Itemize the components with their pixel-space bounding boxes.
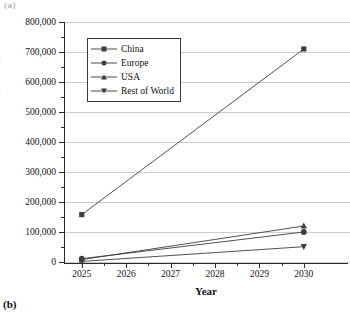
x-tick bbox=[259, 263, 260, 268]
y-tick-label: 600,000 bbox=[25, 77, 56, 87]
y-tick-label: 500,000 bbox=[25, 107, 56, 117]
chart-legend: ChinaEuropeUSARest of World bbox=[87, 38, 181, 102]
y-tick-label: 700,000 bbox=[25, 47, 56, 57]
x-tick bbox=[126, 263, 127, 268]
x-tick bbox=[215, 263, 216, 268]
y-axis-line bbox=[64, 22, 65, 263]
series-usa bbox=[79, 223, 307, 263]
legend-label: Rest of World bbox=[121, 86, 174, 96]
legend-marker-triangle-up-icon bbox=[91, 71, 117, 83]
legend-label: China bbox=[121, 44, 144, 54]
x-tick-minor bbox=[104, 263, 105, 266]
legend-label: Europe bbox=[121, 58, 148, 68]
x-tick-label: 2030 bbox=[294, 269, 313, 279]
x-tick-minor bbox=[237, 263, 238, 266]
y-tick-label: 800,000 bbox=[25, 17, 56, 27]
legend-marker-triangle-down-icon bbox=[91, 85, 117, 97]
x-tick-label: 2029 bbox=[250, 269, 269, 279]
y-tick-label: 0 bbox=[51, 257, 56, 267]
legend-item-usa[interactable]: USA bbox=[91, 70, 174, 84]
x-tick-label: 2027 bbox=[161, 269, 180, 279]
y-tick-label: 400,000 bbox=[25, 137, 56, 147]
x-tick-minor bbox=[282, 263, 283, 266]
legend-item-europe[interactable]: Europe bbox=[91, 56, 174, 70]
x-tick-minor bbox=[148, 263, 149, 266]
y-tick-label: 200,000 bbox=[25, 197, 56, 207]
x-axis-line bbox=[64, 263, 348, 264]
x-axis-title: Year bbox=[64, 285, 348, 297]
legend-item-rest-of-world[interactable]: Rest of World bbox=[91, 84, 174, 98]
x-tick bbox=[171, 263, 172, 268]
x-tick-label: 2026 bbox=[117, 269, 136, 279]
y-tick-label: 100,000 bbox=[25, 227, 56, 237]
legend-marker-circle-icon bbox=[91, 57, 117, 69]
panel-label-bottom: (b) bbox=[3, 298, 16, 310]
y-tick-label: 300,000 bbox=[25, 167, 56, 177]
x-tick bbox=[304, 263, 305, 268]
x-tick-minor bbox=[193, 263, 194, 266]
x-tick-label: 2025 bbox=[72, 269, 91, 279]
legend-marker-square-icon bbox=[91, 43, 117, 55]
figure-panel-b: (a) Future trend of truck stock (PHEV) 0… bbox=[0, 0, 350, 319]
panel-label-top: (a) bbox=[4, 0, 16, 10]
series-europe bbox=[79, 229, 307, 262]
x-tick bbox=[82, 263, 83, 268]
x-tick-label: 2028 bbox=[205, 269, 224, 279]
legend-item-china[interactable]: China bbox=[91, 42, 174, 56]
legend-label: USA bbox=[121, 72, 140, 82]
